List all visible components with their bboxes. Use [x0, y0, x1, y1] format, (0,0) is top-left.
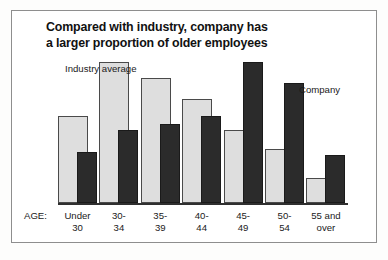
x-tick-line-0: 55 and [300, 210, 351, 222]
bar-company-55-and-over [325, 155, 345, 203]
x-axis-line [58, 203, 348, 205]
bar-company-30-34 [118, 130, 138, 203]
x-axis-title: AGE: [24, 210, 47, 221]
legend-industry-line-1: Industry [65, 63, 99, 74]
bar-company-35-39 [160, 124, 180, 203]
bar-company-45-49 [243, 62, 263, 203]
legend-label-industry-average: Industry average [65, 63, 136, 75]
x-tick-label-55-and-over: 55 andover [300, 210, 351, 233]
x-tick-line-1: over [300, 222, 351, 234]
bar-company-50-54 [284, 83, 304, 203]
bar-company-40-44 [201, 116, 221, 203]
legend-label-company: Company [299, 84, 340, 96]
bar-company-under-30 [77, 152, 97, 203]
legend-industry-line-2: average [102, 63, 137, 74]
